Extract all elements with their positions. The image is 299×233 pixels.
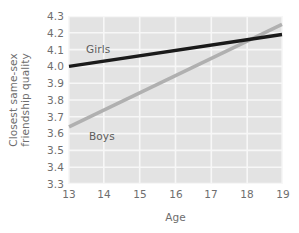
- x-tick-label: 17: [199, 189, 223, 200]
- x-tick-label: 18: [235, 189, 259, 200]
- x-tick-label: 19: [271, 189, 295, 200]
- x-tick-label: 16: [164, 189, 188, 200]
- x-tick-label: 13: [57, 189, 81, 200]
- x-axis-tick-labels: 13 14 15 16 17 18 19: [0, 0, 299, 233]
- x-tick-label: 14: [92, 189, 116, 200]
- x-tick-label: 15: [128, 189, 152, 200]
- chart-figure: Closest same-sex friendship quality 4.3 …: [0, 0, 299, 233]
- x-axis-label: Age: [68, 211, 283, 223]
